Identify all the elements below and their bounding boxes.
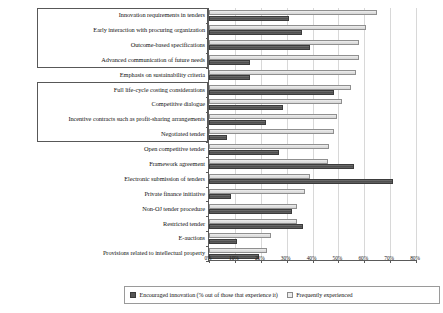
category-axis-tick (206, 82, 209, 83)
x-axis-tick-label: 70% (384, 255, 394, 261)
legend-swatch-dark-icon (130, 292, 136, 298)
bar-frequently-experienced (209, 174, 310, 179)
category-label: Open competitive tender (144, 145, 205, 152)
gridline (338, 8, 339, 260)
category-label: Electronic submission of tenders (124, 175, 205, 182)
plot-area (208, 8, 416, 261)
category-axis-tick (206, 157, 209, 158)
category-label: Outcome-based specifications (131, 41, 205, 48)
category-axis-tick (206, 231, 209, 232)
bar-frequently-experienced (209, 10, 377, 15)
category-axis-tick (206, 201, 209, 202)
category-axis-tick (206, 216, 209, 217)
category-label: Negotiated tender (161, 130, 205, 137)
category-axis-tick (206, 97, 209, 98)
bar-encouraged-innovation (209, 16, 289, 21)
x-axis-tick-label: 80% (410, 255, 420, 261)
bar-encouraged-innovation (209, 209, 292, 214)
bar-encouraged-innovation (209, 239, 237, 244)
bar-encouraged-innovation (209, 224, 303, 229)
bar-frequently-experienced (209, 40, 359, 45)
bar-encouraged-innovation (209, 194, 231, 199)
x-axis-tick-label: 20% (255, 255, 265, 261)
legend-item-frequently-experienced: Frequently experienced (287, 292, 353, 298)
category-label: Emphasis on sustainability criteria (120, 71, 205, 78)
bar-encouraged-innovation (209, 45, 310, 50)
bar-frequently-experienced (209, 219, 297, 224)
bar-encouraged-innovation (209, 75, 250, 80)
legend-item-encouraged-innovation: Encouraged innovation (% out of those th… (130, 292, 278, 298)
category-axis-tick (206, 38, 209, 39)
category-axis-tick (206, 172, 209, 173)
x-axis-tick-label: 60% (358, 255, 368, 261)
bar-encouraged-innovation (209, 120, 266, 125)
bar-frequently-experienced (209, 114, 337, 119)
bar-encouraged-innovation (209, 179, 393, 184)
bar-frequently-experienced (209, 129, 334, 134)
bar-frequently-experienced (209, 189, 305, 194)
legend-label-encouraged-innovation: Encouraged innovation (% out of those th… (140, 292, 278, 298)
category-label: Framework agreement (149, 160, 205, 167)
category-axis-tick (206, 68, 209, 69)
category-axis-tick (206, 53, 209, 54)
category-label: Restricted tender (163, 220, 205, 227)
legend-swatch-light-icon (287, 292, 293, 298)
bar-frequently-experienced (209, 99, 342, 104)
x-axis-tick-label: 0% (205, 255, 212, 261)
bar-frequently-experienced (209, 25, 366, 30)
x-axis-tick-label: 50% (333, 255, 343, 261)
bar-frequently-experienced (209, 204, 297, 209)
legend-label-frequently-experienced: Frequently experienced (296, 292, 352, 298)
bar-frequently-experienced (209, 233, 271, 238)
bar-frequently-experienced (209, 55, 359, 60)
bar-frequently-experienced (209, 70, 356, 75)
gridline (416, 8, 417, 260)
category-label: Innovation requirements in tenders (119, 11, 205, 18)
category-label: Private finance initiative (144, 190, 205, 197)
category-label: Provisions related to intellectual prope… (103, 249, 205, 256)
category-label: Advanced communication of future needs (101, 56, 205, 63)
x-axis-tick-label: 30% (281, 255, 291, 261)
bar-encouraged-innovation (209, 105, 283, 110)
category-label: Early interaction with procuring organiz… (93, 26, 205, 33)
bar-encouraged-innovation (209, 30, 302, 35)
category-axis-tick (206, 142, 209, 143)
category-label: Full life-cycle costing considerations (114, 86, 205, 93)
bar-frequently-experienced (209, 248, 267, 253)
category-axis-tick (206, 23, 209, 24)
bar-frequently-experienced (209, 144, 329, 149)
bar-encouraged-innovation (209, 150, 279, 155)
bar-encouraged-innovation (209, 164, 354, 169)
category-label: Competitive dialogue (152, 100, 205, 107)
category-axis-tick (206, 187, 209, 188)
category-axis-tick (206, 261, 209, 262)
gridline (390, 8, 391, 260)
bar-encouraged-innovation (209, 60, 250, 65)
category-label: Incentive contracts such as profit-shari… (68, 115, 205, 122)
bar-chart: Innovation requirements in tendersEarly … (0, 0, 443, 313)
gridline (364, 8, 365, 260)
x-axis-tick-label: 10% (229, 255, 239, 261)
category-label: E-auctions (179, 234, 205, 241)
bar-encouraged-innovation (209, 90, 334, 95)
bar-frequently-experienced (209, 159, 328, 164)
category-label: Non-OJ tender procedure (142, 205, 205, 212)
category-axis-tick (206, 246, 209, 247)
bar-encouraged-innovation (209, 135, 227, 140)
bar-frequently-experienced (209, 85, 351, 90)
category-axis-tick (206, 112, 209, 113)
category-axis-tick (206, 127, 209, 128)
x-axis-tick-label: 40% (307, 255, 317, 261)
chart-legend: Encouraged innovation (% out of those th… (124, 286, 440, 304)
